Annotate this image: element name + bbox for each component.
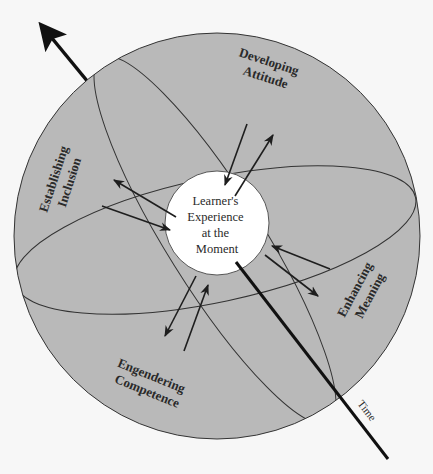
motivational-framework-diagram: Learner's Experience at the Moment Devel… — [0, 0, 433, 474]
time-axis-upper — [42, 26, 88, 82]
